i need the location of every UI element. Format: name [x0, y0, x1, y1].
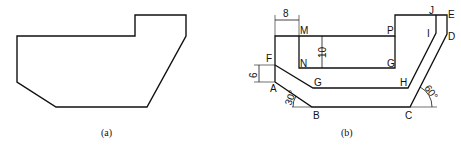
label-n: N [300, 58, 307, 69]
label-b: B [313, 110, 320, 121]
label-p: P [387, 25, 394, 36]
figure-a: (a) [17, 15, 186, 139]
figure-b-caption: (b) [341, 127, 353, 139]
label-m: M [300, 25, 308, 36]
label-c: C [405, 110, 412, 121]
dim-8-label: 8 [283, 8, 289, 19]
label-d: D [448, 31, 455, 42]
label-a: A [270, 83, 277, 94]
dim-10-label: 10 [317, 46, 328, 58]
figure-b [254, 15, 447, 107]
inner-rect [299, 36, 395, 68]
figure-a-outline [17, 15, 186, 107]
angle-30-label: 30° [283, 89, 299, 107]
label-e: E [448, 9, 455, 20]
label-g-offset: G [314, 77, 322, 88]
angle-60-label: 60° [422, 83, 440, 102]
figure-canvas: (a) M N P G G H I J E D F [0, 0, 461, 150]
dim-6-label: 6 [248, 72, 259, 78]
label-j: J [429, 5, 434, 16]
figure-a-caption: (a) [101, 127, 112, 139]
point-labels: M N P G G H I J E D F A B C 8 10 6 30° 6… [248, 5, 455, 139]
label-g-rect: G [387, 58, 395, 69]
label-f: F [266, 53, 272, 64]
label-i: I [427, 28, 430, 39]
label-h: H [400, 77, 407, 88]
